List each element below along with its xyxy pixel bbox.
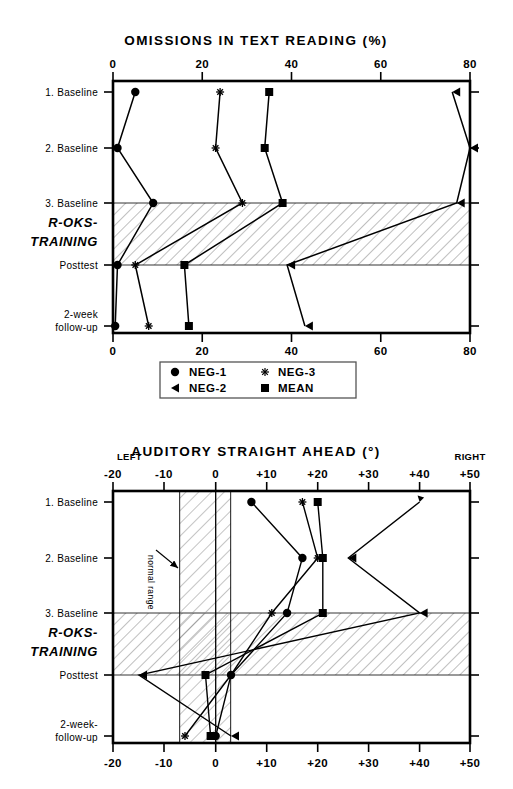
star-marker <box>261 368 269 376</box>
xtick-top-80: 80 <box>463 58 477 70</box>
chart-title: OMISSIONS IN TEXT READING (%) <box>124 33 387 48</box>
circle-marker <box>171 368 179 376</box>
xtick-bot-0: 0 <box>110 345 117 357</box>
legend-label-neg2: NEG-2 <box>189 382 227 394</box>
xtick-top-60: 60 <box>374 58 388 70</box>
xtick-bot-p30: +30 <box>358 757 379 769</box>
omissions-chart: OMISSIONS IN TEXT READING (%) 0 20 40 60… <box>0 0 513 410</box>
axis-end-label-left: LEFT <box>117 451 142 462</box>
row-label-posttest: Posttest <box>59 670 98 681</box>
training-band <box>113 203 470 265</box>
row-label-baseline1: 1. Baseline <box>45 497 98 508</box>
xtick-bot-m10: -10 <box>155 757 173 769</box>
xtick-top-m20: -20 <box>104 468 122 480</box>
legend-label-neg3: NEG-3 <box>278 366 316 378</box>
xtick-top-p30: +30 <box>358 468 379 480</box>
xtick-bot-p20: +20 <box>307 757 328 769</box>
xtick-top-0: 0 <box>212 468 219 480</box>
xtick-bot-60: 60 <box>374 345 388 357</box>
row-label-followup-line1: 2-week- <box>60 719 98 730</box>
row-label-baseline1: 1. Baseline <box>45 87 98 98</box>
xtick-bot-p50: +50 <box>460 757 481 769</box>
row-label-baseline3: 3. Baseline <box>45 198 98 209</box>
xtick-bot-40: 40 <box>285 345 299 357</box>
row-label-posttest: Posttest <box>59 260 98 271</box>
x-axis-top-ticks <box>113 72 470 81</box>
xtick-bot-0: 0 <box>212 757 219 769</box>
xtick-bot-80: 80 <box>463 345 477 357</box>
xtick-top-20: 20 <box>195 58 209 70</box>
auditory-straight-ahead-chart: AUDITORY STRAIGHT AHEAD (°) normal range… <box>0 410 513 789</box>
x-axis-top-ticks <box>113 482 470 491</box>
xtick-top-m10: -10 <box>155 468 173 480</box>
left-triangle-marker <box>171 383 179 392</box>
row-label-followup-line2: follow-up <box>55 322 98 333</box>
training-band <box>113 613 470 675</box>
legend-label-mean: MEAN <box>278 382 314 394</box>
axis-end-label-right: RIGHT <box>454 451 485 462</box>
legend-label-neg1: NEG-1 <box>189 366 227 378</box>
xtick-bot-p10: +10 <box>256 757 277 769</box>
xtick-bot-m20: -20 <box>104 757 122 769</box>
phase-label-line1: R-OKS- <box>48 215 98 230</box>
row-label-followup-line1: 2-week <box>64 309 99 320</box>
figure-container: OMISSIONS IN TEXT READING (%) 0 20 40 60… <box>0 0 513 789</box>
x-axis-bottom-ticks <box>113 333 470 342</box>
row-label-baseline2: 2. Baseline <box>45 553 98 564</box>
normal-range-annotation: normal range <box>146 555 156 610</box>
xtick-top-p10: +10 <box>256 468 277 480</box>
phase-label-line2: TRAINING <box>30 234 98 249</box>
chart-title: AUDITORY STRAIGHT AHEAD (°) <box>131 444 380 459</box>
row-label-baseline2: 2. Baseline <box>45 143 98 154</box>
xtick-top-0: 0 <box>110 58 117 70</box>
xtick-top-p40: +40 <box>409 468 430 480</box>
xtick-top-40: 40 <box>285 58 299 70</box>
x-axis-bottom-ticks <box>113 743 470 752</box>
row-label-baseline3: 3. Baseline <box>45 608 98 619</box>
row-label-followup-line2: follow-up <box>55 732 98 743</box>
square-marker <box>261 384 269 392</box>
phase-label-line1: R-OKS- <box>48 625 98 640</box>
xtick-top-p20: +20 <box>307 468 328 480</box>
xtick-bot-20: 20 <box>195 345 209 357</box>
xtick-top-p50: +50 <box>460 468 481 480</box>
phase-label-line2: TRAINING <box>30 644 98 659</box>
xtick-bot-p40: +40 <box>409 757 430 769</box>
annotation-arrow <box>156 550 178 568</box>
